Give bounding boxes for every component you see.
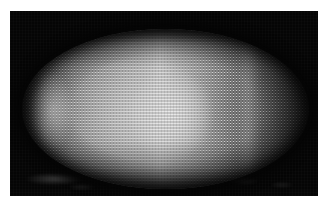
embryo-body[interactable] <box>22 29 309 189</box>
micrograph-panel[interactable] <box>10 11 318 196</box>
figure-root <box>0 0 327 202</box>
optical-blur-overlay <box>22 29 309 189</box>
